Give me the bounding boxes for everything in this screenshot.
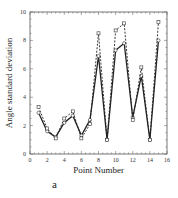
x-tick-label: 0 bbox=[29, 157, 32, 163]
y-axis-label: Angle standard deviation bbox=[4, 37, 14, 128]
y-tick-label: 6 bbox=[23, 66, 26, 72]
chart: 02468101214160246810Point NumberAngle st… bbox=[0, 0, 178, 198]
data-point bbox=[131, 118, 134, 121]
data-point bbox=[97, 54, 100, 57]
data-point bbox=[123, 42, 126, 45]
data-point bbox=[88, 123, 91, 126]
x-tick-label: 16 bbox=[164, 157, 170, 163]
x-axis-label: Point Number bbox=[73, 165, 124, 175]
data-point bbox=[46, 127, 49, 130]
data-point bbox=[80, 137, 83, 140]
data-point bbox=[140, 66, 143, 69]
y-tick-label: 4 bbox=[23, 94, 26, 100]
x-tick-label: 14 bbox=[147, 157, 153, 163]
x-tick-label: 6 bbox=[80, 157, 83, 163]
x-tick-label: 12 bbox=[130, 157, 136, 163]
data-point bbox=[37, 106, 40, 109]
data-point bbox=[148, 138, 151, 141]
data-point bbox=[71, 114, 74, 117]
data-point bbox=[54, 137, 57, 140]
x-tick-label: 10 bbox=[113, 157, 119, 163]
y-tick-label: 0 bbox=[23, 151, 26, 157]
y-tick-label: 8 bbox=[23, 37, 26, 43]
data-point bbox=[97, 32, 100, 35]
x-tick-label: 2 bbox=[46, 157, 49, 163]
y-tick-label: 2 bbox=[23, 123, 26, 129]
data-point bbox=[106, 138, 109, 141]
data-point bbox=[123, 22, 126, 25]
data-point bbox=[71, 110, 74, 113]
data-point bbox=[114, 29, 117, 32]
x-tick-label: 8 bbox=[97, 157, 100, 163]
figure-caption: a bbox=[52, 178, 57, 190]
x-tick-label: 4 bbox=[63, 157, 66, 163]
y-tick-label: 10 bbox=[20, 9, 26, 15]
data-point bbox=[37, 111, 40, 114]
data-point bbox=[63, 117, 66, 120]
data-point bbox=[157, 20, 160, 23]
